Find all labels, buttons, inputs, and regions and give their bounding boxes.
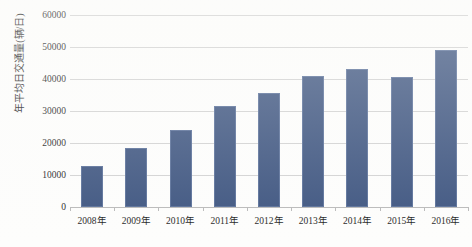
x-tick-mark bbox=[380, 207, 381, 211]
bar-slot bbox=[380, 15, 424, 207]
x-tick-mark bbox=[203, 207, 204, 211]
bar[interactable] bbox=[125, 148, 147, 207]
x-tick-mark bbox=[291, 207, 292, 211]
x-tick-label: 2016年 bbox=[419, 213, 472, 227]
bar-slot bbox=[70, 15, 114, 207]
x-axis: 2008年2009年2010年2011年2012年2013年2014年2015年… bbox=[70, 207, 468, 247]
x-tick-mark bbox=[247, 207, 248, 211]
plot-area bbox=[70, 15, 468, 207]
y-tick-label: 10000 bbox=[24, 170, 66, 180]
bar[interactable] bbox=[258, 93, 280, 207]
x-tick-mark bbox=[335, 207, 336, 211]
bar-slot bbox=[291, 15, 335, 207]
bar-slot bbox=[424, 15, 468, 207]
bar-slot bbox=[335, 15, 379, 207]
x-tick-mark bbox=[468, 207, 469, 211]
bar-slot bbox=[247, 15, 291, 207]
x-tick-mark bbox=[70, 207, 71, 211]
y-tick-label: 0 bbox=[24, 202, 66, 212]
bar[interactable] bbox=[435, 50, 457, 207]
bars-layer bbox=[70, 15, 468, 207]
x-tick-mark bbox=[114, 207, 115, 211]
y-tick-label: 60000 bbox=[24, 10, 66, 20]
bar-slot bbox=[203, 15, 247, 207]
y-tick-label: 50000 bbox=[24, 42, 66, 52]
x-tick-mark bbox=[158, 207, 159, 211]
x-tick-mark bbox=[424, 207, 425, 211]
y-axis-tick-labels: 0100002000030000400005000060000 bbox=[24, 0, 66, 247]
y-tick-label: 20000 bbox=[24, 138, 66, 148]
bar[interactable] bbox=[170, 130, 192, 207]
y-tick-label: 30000 bbox=[24, 106, 66, 116]
y-tick-label: 40000 bbox=[24, 74, 66, 84]
bar-slot bbox=[114, 15, 158, 207]
bar[interactable] bbox=[302, 76, 324, 207]
bar-slot bbox=[158, 15, 202, 207]
bar-chart: 年平均日交通量(辆/日) 010000200003000040000500006… bbox=[0, 0, 472, 247]
bar[interactable] bbox=[214, 106, 236, 207]
bar[interactable] bbox=[346, 69, 368, 207]
bar[interactable] bbox=[391, 77, 413, 207]
bar[interactable] bbox=[81, 166, 103, 207]
